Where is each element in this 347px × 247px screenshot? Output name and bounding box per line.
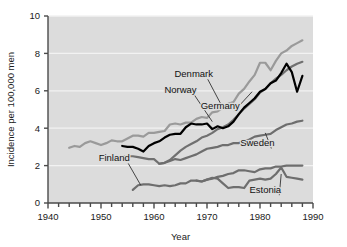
incidence-line-chart: 0246810194019501960197019801990YearIncid… bbox=[0, 0, 347, 247]
y-tick-label-10: 10 bbox=[29, 10, 40, 21]
series-label-denmark: Denmark bbox=[174, 68, 213, 79]
series-label-finland: Finland bbox=[99, 152, 130, 163]
x-tick-label-1980: 1980 bbox=[249, 211, 270, 222]
y-tick-label-2: 2 bbox=[35, 160, 40, 171]
x-tick-label-1940: 1940 bbox=[37, 211, 58, 222]
x-tick-label-1970: 1970 bbox=[196, 211, 217, 222]
series-label-sweden: Sweden bbox=[240, 137, 274, 148]
chart-figure: 0246810194019501960197019801990YearIncid… bbox=[0, 0, 347, 247]
series-label-estonia: Estonia bbox=[249, 184, 281, 195]
y-tick-label-8: 8 bbox=[35, 48, 40, 59]
x-tick-label-1960: 1960 bbox=[143, 211, 164, 222]
series-label-norway: Norway bbox=[164, 84, 196, 95]
x-tick-label-1950: 1950 bbox=[90, 211, 111, 222]
y-tick-label-6: 6 bbox=[35, 85, 40, 96]
series-label-germany: Germany bbox=[201, 100, 240, 111]
x-tick-label-1990: 1990 bbox=[302, 211, 323, 222]
y-tick-label-0: 0 bbox=[35, 197, 40, 208]
x-axis-title: Year bbox=[171, 231, 190, 242]
y-axis-title: Incidence per 100,000 men bbox=[5, 52, 16, 167]
y-tick-label-4: 4 bbox=[35, 123, 40, 134]
